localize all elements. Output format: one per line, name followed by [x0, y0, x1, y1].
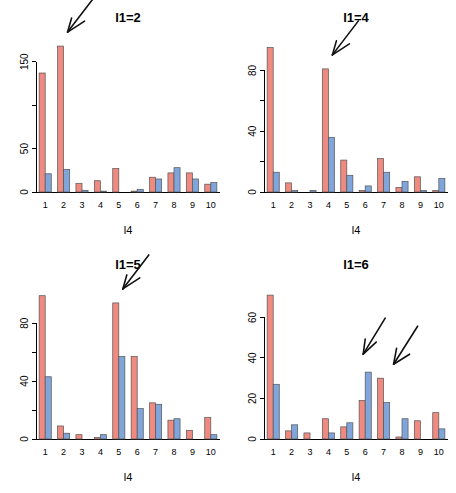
- bar: [267, 295, 273, 439]
- x-axis-tick-label: 7: [381, 200, 386, 210]
- x-axis-tick-label: 8: [399, 447, 404, 457]
- x-axis-tick-label: 8: [171, 447, 176, 457]
- bar: [304, 433, 310, 439]
- x-axis-tick-label: 5: [344, 447, 349, 457]
- x-axis-tick-label: 4: [98, 200, 103, 210]
- bar: [186, 173, 192, 192]
- bars-group: [39, 296, 217, 439]
- bar: [322, 69, 328, 192]
- bar: [58, 46, 64, 192]
- bar: [94, 438, 100, 439]
- bar: [414, 421, 420, 439]
- bar: [64, 433, 70, 439]
- bar: [328, 433, 334, 439]
- y-axis-tick-label: 80: [247, 64, 258, 76]
- y-axis-tick-label: 40: [19, 375, 30, 387]
- x-axis-tick-label: 7: [153, 447, 158, 457]
- bar: [420, 190, 426, 192]
- x-axis-tick-label: 3: [307, 200, 312, 210]
- annotation-double-arrow-right: [394, 326, 418, 364]
- y-axis-tick-label: 150: [19, 53, 30, 70]
- x-axis-label: l4: [124, 224, 133, 236]
- bar: [211, 435, 217, 439]
- y-axis-tick-label: 50: [19, 143, 30, 155]
- bar: [365, 372, 371, 439]
- x-axis-tick-label: 4: [326, 447, 331, 457]
- bar: [286, 183, 292, 192]
- bar: [402, 419, 408, 439]
- x-axis-tick-label: 3: [307, 447, 312, 457]
- bar: [168, 420, 174, 439]
- x-axis-tick-label: 2: [289, 200, 294, 210]
- y-axis-tick-label: 40: [247, 125, 258, 137]
- chart-panel-4: l1=6020406012345678910l4: [228, 247, 456, 493]
- bar: [359, 400, 365, 439]
- bar: [174, 419, 180, 439]
- bar: [292, 425, 298, 439]
- x-axis-tick-label: 6: [135, 200, 140, 210]
- bar: [137, 189, 143, 192]
- bar: [439, 178, 445, 192]
- bar: [414, 177, 420, 192]
- figure-canvas: l1=205015012345678910l4l1=40408012345678…: [0, 0, 456, 493]
- bar: [378, 378, 384, 439]
- bar: [131, 191, 137, 192]
- y-axis-tick-label: 0: [19, 189, 30, 195]
- x-axis-label: l4: [352, 471, 361, 483]
- bar: [64, 169, 70, 192]
- x-axis-label: l4: [124, 471, 133, 483]
- bar: [439, 429, 445, 439]
- x-axis-tick-label: 9: [190, 200, 195, 210]
- annotation-single-arrow: [332, 21, 358, 55]
- bar: [365, 186, 371, 192]
- bar: [292, 190, 298, 192]
- bar: [205, 417, 211, 439]
- x-axis-tick-label: 10: [206, 200, 216, 210]
- x-axis-tick-label: 1: [43, 447, 48, 457]
- bar: [310, 190, 316, 192]
- bar: [205, 184, 211, 192]
- x-axis-tick-label: 5: [344, 200, 349, 210]
- bar: [322, 419, 328, 439]
- bar: [113, 169, 119, 192]
- bar: [156, 404, 162, 439]
- x-axis-tick-label: 6: [363, 200, 368, 210]
- bar: [39, 296, 45, 439]
- bars-group: [39, 46, 217, 192]
- bar: [113, 303, 119, 439]
- y-axis-tick-label: 40: [247, 352, 258, 364]
- y-axis-tick-label: 0: [247, 189, 258, 195]
- bar: [341, 160, 347, 192]
- x-axis-tick-label: 8: [399, 200, 404, 210]
- bar: [396, 187, 402, 192]
- x-axis-tick-label: 6: [135, 447, 140, 457]
- bar: [100, 435, 106, 439]
- y-axis-tick-label: 20: [247, 392, 258, 404]
- x-axis-tick-label: 5: [116, 447, 121, 457]
- bar: [328, 137, 334, 192]
- bar: [396, 437, 402, 439]
- y-axis-tick-label: 60: [247, 311, 258, 323]
- x-axis-tick-label: 10: [434, 447, 444, 457]
- x-axis-tick-label: 1: [271, 200, 276, 210]
- chart-panel-1: l1=205015012345678910l4: [0, 0, 228, 246]
- x-axis-tick-label: 9: [190, 447, 195, 457]
- x-axis-tick-label: 2: [61, 200, 66, 210]
- bar: [45, 174, 51, 192]
- x-axis-tick-label: 1: [271, 447, 276, 457]
- bar: [150, 403, 156, 439]
- bar: [286, 431, 292, 439]
- bar: [58, 426, 64, 439]
- bar: [359, 190, 365, 192]
- chart-panel-2: l1=40408012345678910l4: [228, 0, 456, 246]
- bar: [384, 172, 390, 192]
- x-axis-tick-label: 6: [363, 447, 368, 457]
- bar: [273, 384, 279, 439]
- bar: [347, 423, 353, 439]
- panel-title: l1=6: [343, 257, 369, 272]
- x-axis-tick-label: 9: [418, 200, 423, 210]
- bar: [267, 48, 273, 192]
- x-axis-tick-label: 3: [79, 447, 84, 457]
- bar: [433, 413, 439, 439]
- bar: [211, 182, 217, 192]
